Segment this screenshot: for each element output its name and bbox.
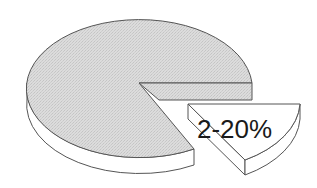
slice-label: 2-20% — [197, 114, 272, 144]
exploded-slice: 2-20% — [188, 104, 300, 175]
pie-chart: 2-20% — [0, 0, 317, 188]
main-slice-right-wall — [139, 83, 252, 100]
main-slice — [26, 20, 252, 174]
